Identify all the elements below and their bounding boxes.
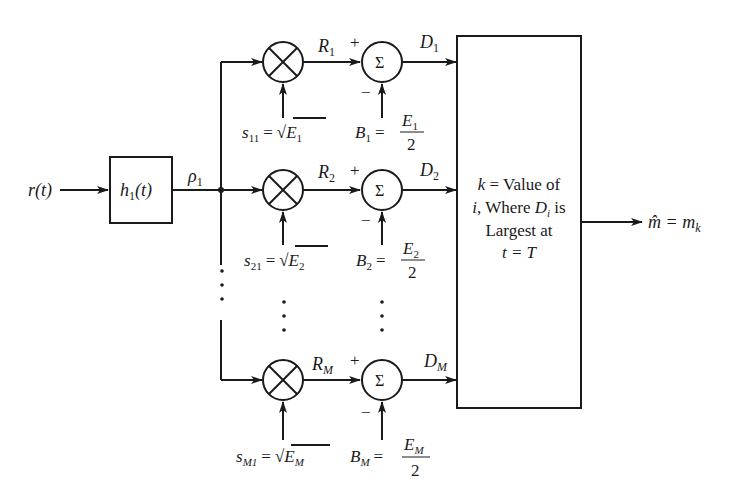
svg-text:D2: D2 [419, 160, 439, 183]
svg-text:2: 2 [411, 461, 420, 480]
decision-block: k = Value of i, Where Di is Largest at t… [457, 36, 581, 408]
svg-text:BM=: BM= [350, 447, 383, 468]
svg-text:t = T: t = T [502, 243, 538, 262]
svg-text:DM: DM [423, 351, 448, 374]
branch-1: R1 + Σ D1 − s11=√E1 B1= E1 2 [221, 32, 456, 154]
output-label: m̂ = mk [648, 212, 701, 235]
svg-text:h1(t): h1(t) [120, 180, 152, 203]
input-signal: r(t) [28, 180, 108, 201]
svg-text:R2: R2 [317, 162, 335, 185]
svg-text:B1=: B1= [355, 123, 384, 144]
bus-ellipsis [220, 269, 224, 301]
svg-text:Σ: Σ [375, 372, 384, 389]
svg-text:Σ: Σ [375, 54, 384, 71]
svg-text:2: 2 [407, 135, 416, 154]
svg-text:i, Where Di is: i, Where Di is [472, 198, 565, 219]
svg-text:−: − [361, 211, 371, 230]
multiplier-1 [263, 42, 303, 82]
svg-text:E2: E2 [402, 239, 419, 260]
filter-block: h1(t) [110, 157, 172, 223]
summer-1: Σ [362, 42, 402, 82]
branch-m: RM + Σ DM − sM1=√EM BM= EM 2 [221, 351, 456, 480]
svg-text:r(t): r(t) [28, 180, 52, 201]
svg-text:B2=: B2= [356, 251, 385, 272]
branch-ellipsis [282, 300, 384, 332]
multiplier-m [263, 360, 303, 400]
branch-2: R2 + Σ D2 − s21=√E2 B2= E2 2 [221, 160, 456, 282]
svg-text:RM: RM [311, 354, 334, 377]
svg-text:D1: D1 [419, 32, 439, 55]
svg-text:+: + [350, 351, 360, 370]
svg-text:E1: E1 [401, 111, 418, 132]
summer-2: Σ [362, 170, 402, 210]
multiplier-2 [263, 170, 303, 210]
svg-text:R1: R1 [317, 36, 335, 59]
correlation-receiver-diagram: r(t) h1(t) ρ1 R1 + Σ D1 [0, 0, 730, 500]
svg-text:Largest at: Largest at [485, 221, 552, 240]
svg-text:+: + [350, 161, 360, 180]
svg-text:2: 2 [408, 263, 417, 282]
svg-text:+: + [350, 33, 360, 52]
svg-text:−: − [361, 403, 371, 422]
svg-text:−: − [361, 83, 371, 102]
rho-label: ρ1 [187, 166, 203, 189]
svg-text:k = Value of: k = Value of [478, 175, 561, 194]
svg-text:s11=√E1: s11=√E1 [242, 123, 302, 144]
svg-text:sM1=√EM: sM1=√EM [236, 447, 305, 468]
summer-m: Σ [362, 360, 402, 400]
svg-text:s21=√E2: s21=√E2 [244, 251, 304, 272]
svg-text:EM: EM [403, 435, 424, 456]
svg-text:Σ: Σ [375, 182, 384, 199]
